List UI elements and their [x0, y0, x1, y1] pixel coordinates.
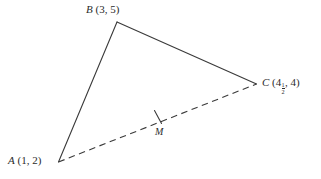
segment-bc [117, 22, 257, 84]
segment-ab [59, 22, 118, 162]
vertex-label-m: M [155, 127, 163, 137]
segment-ac-dashed [59, 84, 257, 162]
vertex-label-a: A (1, 2) [8, 155, 41, 166]
vertex-coords-c: (412, 4) [272, 76, 300, 88]
fraction-denominator: 2 [282, 88, 285, 96]
paren-close: ) [296, 76, 300, 88]
vertex-coords-a: (1, 2) [17, 154, 41, 166]
geometry-diagram: B (3, 5) C (412, 4) A (1, 2) M [0, 0, 321, 179]
vertex-letter-a: A [8, 154, 15, 166]
vertex-coords-b: (3, 5) [95, 3, 119, 15]
vertex-label-c: C (412, 4) [262, 77, 300, 96]
vertex-label-b: B (3, 5) [86, 4, 119, 15]
midpoint-tick-icon [155, 111, 162, 124]
vertex-letter-b: B [86, 3, 93, 15]
vertex-c-x-whole: 4 [276, 76, 282, 88]
